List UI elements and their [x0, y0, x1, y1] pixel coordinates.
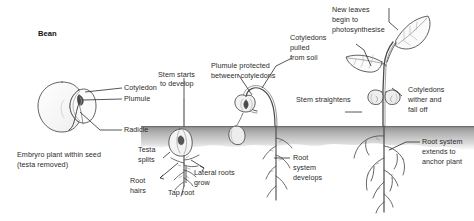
label-plumule-protected-line2: between cotyledons — [211, 71, 275, 80]
label-plumule-protected-line1: Plumule protected — [211, 61, 270, 70]
label-root-extends-line3: anchor plant — [422, 157, 462, 166]
label-stem-straightens: Stem straightens — [296, 95, 351, 104]
label-lateral-roots-line1: Lateral roots — [194, 168, 235, 177]
label-cotyledon: Cotyledon — [124, 83, 157, 92]
label-cotyledons-pulled-line2: pulled — [290, 43, 309, 52]
diagram-canvas: Bean Cotyledon Plumule Radicle Embryro p… — [0, 0, 474, 221]
label-new-leaves-line2: begin to — [332, 15, 358, 24]
label-new-leaves-line1: New leaves — [332, 5, 370, 14]
seed-caption-line1: Embryro plant within seed — [17, 150, 101, 159]
label-testa-splits-line2: splits — [138, 155, 155, 164]
label-testa-splits-line1: Testa — [138, 145, 155, 154]
label-cotyledons-pulled-line3: from soil — [290, 53, 318, 62]
label-new-leaves-line3: photosynthesise — [332, 25, 385, 34]
label-lateral-roots-line2: grow — [194, 178, 210, 187]
label-tap-root: Tap root — [168, 188, 194, 197]
label-plumule: Plumule — [124, 94, 150, 103]
label-cotyledons-pulled-line1: Cotyledons — [290, 33, 326, 42]
label-radicle: Radicle — [124, 125, 148, 134]
label-cotyledons-wither-line2: wither and — [408, 95, 442, 104]
label-stem-starts-line1: Stem starts — [158, 70, 195, 79]
label-root-system-develops-line2: system — [293, 163, 316, 172]
label-root-extends-line1: Root system — [422, 137, 463, 146]
label-root-hairs-line1: Root — [130, 176, 145, 185]
label-root-hairs-line2: hairs — [130, 186, 146, 195]
bean-seed-drawing — [38, 82, 96, 132]
label-root-system-develops-line1: Root — [293, 153, 308, 162]
label-root-extends-line2: extends to — [422, 147, 456, 156]
label-root-system-develops-line3: develops — [293, 173, 322, 182]
seed-caption-line2: (testa removed) — [17, 160, 68, 169]
label-cotyledons-wither-line1: Cotyledons — [408, 85, 444, 94]
label-cotyledons-wither-line3: fall off — [408, 105, 427, 114]
label-stem-starts-line2: to develop — [160, 79, 194, 88]
diagram-title: Bean — [38, 29, 57, 38]
germination-artwork — [0, 0, 474, 221]
